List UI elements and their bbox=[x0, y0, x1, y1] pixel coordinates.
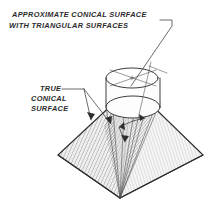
label-approximate-line2: WITH TRIANGULAR SURFACES bbox=[9, 21, 128, 30]
label-true-line3: SURFACE bbox=[31, 104, 69, 113]
arrowhead-icon bbox=[87, 112, 95, 120]
label-approximate-conical-surface: APPROXIMATE CONICAL SURFACE WITH TRIANGU… bbox=[9, 10, 147, 30]
label-true-conical-surface: TRUE CONICAL SURFACE bbox=[31, 84, 69, 113]
leader-approximate-conical-surface bbox=[131, 20, 172, 86]
label-approximate-line1: APPROXIMATE CONICAL SURFACE bbox=[11, 10, 147, 19]
figure-canvas: APPROXIMATE CONICAL SURFACE WITH TRIANGU… bbox=[0, 0, 215, 216]
label-true-line1: TRUE bbox=[40, 84, 62, 93]
leader-line-icon bbox=[131, 20, 172, 86]
cylinder-solid bbox=[106, 66, 167, 118]
label-true-line2: CONICAL bbox=[31, 94, 67, 103]
conical-surface-figure: APPROXIMATE CONICAL SURFACE WITH TRIANGU… bbox=[0, 0, 215, 216]
